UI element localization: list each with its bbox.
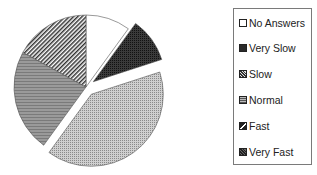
pie-chart bbox=[0, 0, 230, 175]
legend-item-very-slow: Very Slow bbox=[239, 42, 296, 54]
pie-slices bbox=[14, 15, 163, 166]
chart-legend: No Answers Very Slow Slow Normal Fast Ve… bbox=[233, 8, 312, 165]
black-square-icon bbox=[239, 44, 247, 52]
legend-label: Very Slow bbox=[249, 42, 296, 54]
legend-item-very-fast: Very Fast bbox=[239, 146, 293, 158]
legend-item-normal: Normal bbox=[239, 94, 283, 106]
legend-label: Normal bbox=[249, 94, 283, 106]
legend-item-no-answers: No Answers bbox=[239, 17, 305, 29]
dotted-square-icon bbox=[239, 70, 247, 78]
lined-square-icon bbox=[239, 96, 247, 104]
legend-item-slow: Slow bbox=[239, 68, 272, 80]
legend-label: No Answers bbox=[249, 17, 305, 29]
legend-label: Slow bbox=[249, 68, 272, 80]
white-square-icon bbox=[239, 19, 247, 27]
legend-item-fast: Fast bbox=[239, 120, 269, 132]
legend-label: Very Fast bbox=[249, 146, 293, 158]
legend-label: Fast bbox=[249, 120, 269, 132]
striped-square-icon bbox=[239, 122, 247, 130]
dark-dotted-square-icon bbox=[239, 148, 247, 156]
